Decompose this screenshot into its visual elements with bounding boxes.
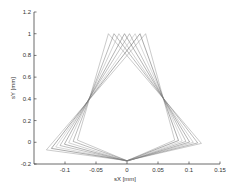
x-tick-label: -0.05 [89,167,103,173]
y-tick-label: 0.2 [23,118,32,124]
y-tick-label: 0.6 [23,74,32,80]
x-tick-label: 0.05 [152,167,164,173]
y-tick-label: 1.2 [23,9,32,15]
x-tick-label: -0.1 [60,167,71,173]
series-line-loop-5 [60,34,186,161]
x-tick-label: 0.1 [185,167,194,173]
x-ticks: -0.1-0.0500.050.10.15 [60,162,227,174]
x-axis-label: sX [mm] [114,176,136,182]
y-tick-label: 0.8 [23,52,32,58]
x-tick-label: 0.15 [214,167,226,173]
series-line-loop-2 [73,34,198,161]
y-axis-label: sY [mm] [10,77,16,99]
y-tick-label: 0 [28,139,32,145]
x-tick-label: 0 [125,167,129,173]
series-layer [46,34,201,161]
y-tick-label: 0.4 [23,96,32,102]
chart: -0.1-0.0500.050.10.15 -0.200.20.40.60.81… [0,0,241,195]
y-tick-label: -0.2 [21,161,32,167]
series-line-loop-7 [51,34,178,161]
y-tick-label: 1 [28,31,32,37]
